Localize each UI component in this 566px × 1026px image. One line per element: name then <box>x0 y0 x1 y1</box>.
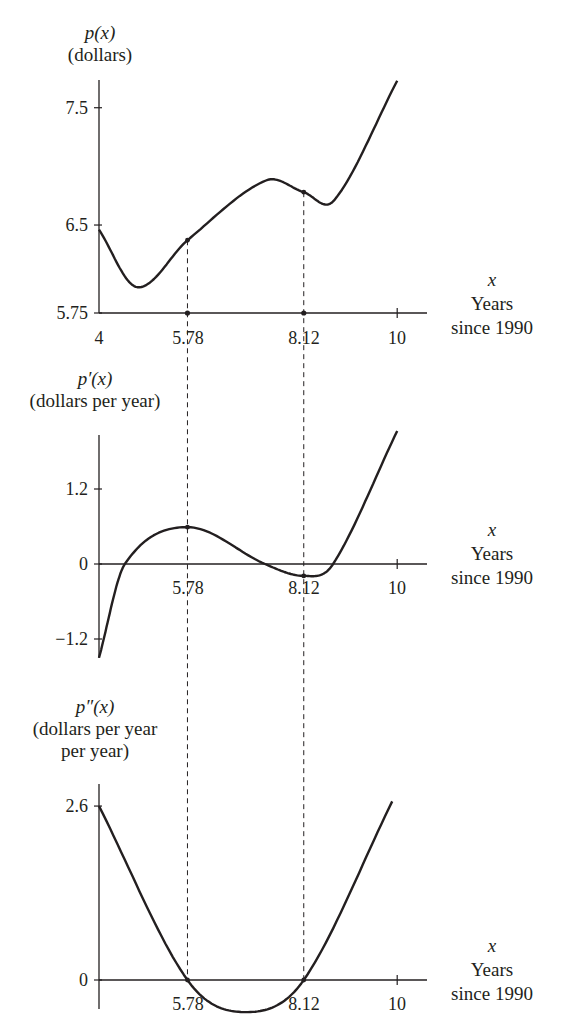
chart-p-double-prime-xlabel-line1: Years <box>432 958 552 982</box>
curve-dp <box>99 431 397 658</box>
chart-p-double-prime-xlabel-line2: since 1990 <box>432 982 552 1006</box>
chart-p-double-prime-xlabel: x Years since 1990 <box>432 934 552 1006</box>
chart-p-prime-xtick-5-78: 5.78 <box>158 578 218 598</box>
chart-p-prime-xlabel: x Years since 1990 <box>432 518 552 590</box>
chart-p-prime-xtick-8-12: 8.12 <box>274 578 334 598</box>
chart-p-xtick-5-78: 5.78 <box>158 328 218 348</box>
chart-p-xlabel: x Years since 1990 <box>432 268 552 340</box>
chart-p-double-prime-func-label: p″(x) <box>5 696 185 718</box>
chart-p-double-prime-units-line2: per year) <box>5 740 185 762</box>
chart-p-double-prime-xtick-8-12: 8.12 <box>274 994 334 1014</box>
chart-p-ytick-6-5: 6.5 <box>28 215 88 235</box>
chart-p-prime-func-label: p′(x) <box>5 368 185 390</box>
chart-p-prime-ytick-1-2: 1.2 <box>28 479 88 499</box>
chart-p-double-prime <box>94 784 427 1012</box>
chart-p-prime-xvar: x <box>432 518 552 542</box>
chart-p-double-prime-ylabel: p″(x) (dollars per year per year) <box>5 696 185 762</box>
chart-p-double-prime-xtick-5-78: 5.78 <box>158 994 218 1014</box>
chart-p-prime-xlabel-line2: since 1990 <box>432 566 552 590</box>
chart-p-prime-units-label: (dollars per year) <box>5 390 185 412</box>
chart-p-xlabel-line2: since 1990 <box>432 316 552 340</box>
chart-p-double-prime-xvar: x <box>432 934 552 958</box>
chart-p-ytick-7-5: 7.5 <box>28 98 88 118</box>
chart-p-xvar: x <box>432 268 552 292</box>
chart-p-xtick-10: 10 <box>367 328 427 348</box>
chart-p-prime-xtick-10: 10 <box>367 578 427 598</box>
chart-p-double-prime-ytick-0: 0 <box>28 970 88 990</box>
chart-p-ytick-5-75: 5.75 <box>28 303 88 323</box>
chart-p-prime-ylabel: p′(x) (dollars per year) <box>5 368 185 412</box>
chart-p-func-label: p(x) <box>40 22 160 44</box>
chart-p-double-prime-units-line1: (dollars per year <box>5 718 185 740</box>
chart-p-prime-ytick-0: 0 <box>28 554 88 574</box>
chart-p-prime <box>94 431 427 658</box>
chart-p <box>94 80 427 318</box>
chart-p-double-prime-ytick-2-6: 2.6 <box>28 796 88 816</box>
chart-p-prime-ytick-neg-1-2: −1.2 <box>28 629 88 649</box>
chart-p-xtick-4: 4 <box>69 328 129 348</box>
chart-p-ylabel: p(x) (dollars) <box>40 22 160 66</box>
curve-p <box>99 81 397 288</box>
chart-p-xlabel-line1: Years <box>432 292 552 316</box>
chart-p-prime-xlabel-line1: Years <box>432 542 552 566</box>
chart-p-double-prime-xtick-10: 10 <box>367 994 427 1014</box>
chart-p-xtick-8-12: 8.12 <box>274 328 334 348</box>
derivative-charts-figure <box>0 0 566 1026</box>
chart-p-units-label: (dollars) <box>40 44 160 66</box>
